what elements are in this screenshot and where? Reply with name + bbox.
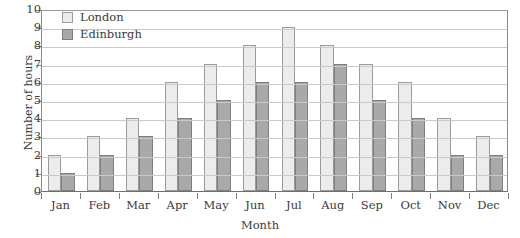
legend-item-edinburgh: Edinburgh [62, 29, 142, 41]
gridline [42, 138, 507, 139]
x-axis-title: Month [0, 218, 520, 232]
x-tick-label-feb: Feb [80, 200, 119, 212]
x-tick-mark [391, 193, 392, 199]
y-tick-label: 2 [7, 150, 41, 162]
x-tick-label-aug: Aug [313, 200, 352, 212]
gridline [42, 84, 507, 85]
bar-london-jun [243, 45, 256, 191]
x-tick-mark [158, 193, 159, 199]
x-tick-label-jun: Jun [236, 200, 275, 212]
legend-label: London [80, 12, 124, 24]
x-tick-mark [352, 193, 353, 199]
gridline [42, 102, 507, 103]
y-tick-label: 9 [7, 22, 41, 34]
x-tick-mark [80, 193, 81, 199]
x-tick-mark [313, 193, 314, 199]
x-tick-label-may: May [197, 200, 236, 212]
legend-swatch-icon [62, 29, 73, 40]
bar-edinburgh-feb [100, 155, 113, 191]
bar-edinburgh-mar [139, 136, 152, 191]
y-tick-label: 7 [7, 59, 41, 71]
bar-london-aug [320, 45, 333, 191]
x-tick-mark [236, 193, 237, 199]
bar-edinburgh-oct [412, 118, 425, 191]
x-tick-mark [508, 193, 509, 199]
y-tick-label: 10 [7, 4, 41, 16]
x-tick-mark [41, 193, 42, 199]
x-tick-label-apr: Apr [158, 200, 197, 212]
bar-london-jan [48, 155, 61, 191]
x-tick-label-jan: Jan [41, 200, 80, 212]
legend: LondonEdinburgh [62, 12, 142, 45]
y-tick-label: 6 [7, 77, 41, 89]
x-tick-label-nov: Nov [430, 200, 469, 212]
x-tick-label-sep: Sep [352, 200, 391, 212]
bar-edinburgh-aug [334, 64, 347, 191]
legend-swatch-icon [62, 12, 73, 23]
y-tick-label: 1 [7, 168, 41, 180]
y-tick-label: 3 [7, 131, 41, 143]
x-tick-mark [469, 193, 470, 199]
legend-label: Edinburgh [80, 29, 142, 41]
bar-edinburgh-may [217, 100, 230, 191]
y-tick-label: 8 [7, 40, 41, 52]
bar-london-may [204, 64, 217, 191]
x-tick-mark [119, 193, 120, 199]
x-tick-label-oct: Oct [391, 200, 430, 212]
y-tick-label: 4 [7, 113, 41, 125]
bar-edinburgh-apr [178, 118, 191, 191]
y-tick-label: 0 [7, 186, 41, 198]
bar-chart: Number of hours 109876543210 Month Londo… [0, 0, 520, 238]
legend-item-london: London [62, 12, 142, 24]
bar-london-nov [437, 118, 450, 191]
bar-london-mar [126, 118, 139, 191]
x-tick-mark [430, 193, 431, 199]
x-tick-label-dec: Dec [469, 200, 508, 212]
bar-edinburgh-nov [451, 155, 464, 191]
bar-london-dec [476, 136, 489, 191]
gridline [42, 47, 507, 48]
y-tick-label: 5 [7, 95, 41, 107]
gridline [42, 175, 507, 176]
gridline [42, 120, 507, 121]
y-axis: 109876543210 [0, 10, 41, 192]
x-tick-mark [197, 193, 198, 199]
x-tick-label-jul: Jul [275, 200, 314, 212]
x-tick-label-mar: Mar [119, 200, 158, 212]
gridline [42, 157, 507, 158]
x-tick-mark [275, 193, 276, 199]
bar-london-feb [87, 136, 100, 191]
bar-london-jul [282, 27, 295, 191]
bar-edinburgh-sep [373, 100, 386, 191]
bar-edinburgh-dec [490, 155, 503, 191]
gridline [42, 66, 507, 67]
bar-london-sep [359, 64, 372, 191]
